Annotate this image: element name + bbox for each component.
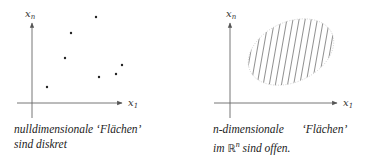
point — [70, 32, 72, 34]
open-region-hatched — [238, 6, 345, 98]
right-caption-line1: -dimensionale — [219, 123, 284, 135]
right-caption-im: im — [213, 142, 227, 154]
point — [46, 86, 48, 88]
left-caption: nulldimensionale ‘Flächen’ sind diskret — [14, 122, 141, 152]
point — [98, 76, 100, 78]
point — [64, 57, 66, 59]
left-caption-line1-a: nulldimensionale — [14, 123, 93, 135]
right-caption-line2: sind offen. — [240, 142, 291, 154]
left-x-axis-label: x1 — [128, 97, 138, 110]
left-diagram: xn x1 — [17, 8, 138, 118]
real-numbers-symbol: ℝ — [227, 142, 235, 154]
right-x-axis-label: x1 — [343, 97, 353, 110]
right-diagram: xn x1 — [214, 6, 353, 118]
point — [95, 16, 97, 18]
left-caption-line2: sind diskret — [14, 138, 67, 150]
left-y-axis-label: xn — [25, 8, 36, 21]
right-caption-flaechen: ‘Flächen’ — [302, 123, 347, 135]
discrete-points — [46, 16, 123, 88]
right-y-axis-label: xn — [226, 8, 237, 21]
left-caption-line1-b: ‘Flächen’ — [96, 123, 141, 135]
point — [115, 73, 117, 75]
point — [121, 64, 123, 66]
right-caption: n-dimensionale‘Flächen’ im ℝn sind offen… — [213, 122, 347, 156]
